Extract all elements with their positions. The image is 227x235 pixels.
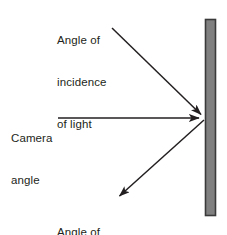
label-incidence-line-2: incidence	[57, 75, 107, 89]
label-angle-of-incidence: Angle of incidence of light	[57, 5, 107, 159]
label-camera-angle: Camera angle	[11, 103, 53, 215]
label-camera-line-2: angle	[11, 173, 53, 187]
label-incidence-line-3: of light	[57, 117, 107, 131]
incident-ray-line	[112, 28, 201, 115]
label-incidence-line-1: Angle of	[57, 33, 107, 47]
label-angle-of-reflection: Angle of reflection	[57, 197, 105, 235]
label-reflection-line-1: Angle of	[57, 225, 105, 235]
label-camera-line-1: Camera	[11, 131, 53, 145]
reflection-diagram: Angle of incidence of light Camera angle…	[0, 0, 227, 235]
reflected-ray-line	[120, 120, 205, 196]
reflective-surface-bar	[206, 20, 216, 216]
